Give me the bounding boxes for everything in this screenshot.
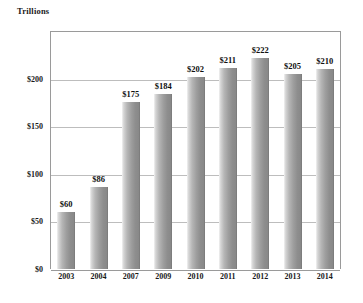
bar-value-label: $184 <box>155 81 172 91</box>
bar[interactable] <box>57 212 75 269</box>
y-axis: $0$50$100$150$200 <box>0 31 47 269</box>
chart-title: Trillions <box>17 6 49 16</box>
bar-value-label: $222 <box>252 45 269 55</box>
x-tick-label: 2013 <box>285 272 301 281</box>
x-tick-label: 2011 <box>220 272 236 281</box>
bar-group[interactable]: $205 <box>284 31 302 269</box>
bar-group[interactable]: $211 <box>219 31 237 269</box>
bar-value-label: $202 <box>187 64 204 74</box>
bar-value-label: $210 <box>316 56 333 66</box>
bar[interactable] <box>316 69 334 269</box>
bar[interactable] <box>219 68 237 269</box>
bar-value-label: $205 <box>284 61 301 71</box>
bar[interactable] <box>90 187 108 269</box>
bar[interactable] <box>187 77 205 269</box>
bar[interactable] <box>251 58 269 269</box>
bar-group[interactable]: $202 <box>187 31 205 269</box>
bar-chart: Trillions $0$50$100$150$200 $60$86$175$1… <box>0 0 363 303</box>
bar-value-label: $60 <box>60 199 73 209</box>
bar-group[interactable]: $86 <box>90 31 108 269</box>
bar-group[interactable]: $60 <box>57 31 75 269</box>
bar-group[interactable]: $175 <box>122 31 140 269</box>
x-tick-label: 2007 <box>123 272 139 281</box>
x-tick-label: 2010 <box>188 272 204 281</box>
bar[interactable] <box>284 74 302 269</box>
x-tick-label: 2012 <box>252 272 268 281</box>
bar[interactable] <box>122 102 140 269</box>
y-tick-label: $0 <box>35 265 43 274</box>
x-tick-label: 2009 <box>155 272 171 281</box>
y-tick-label: $100 <box>27 169 43 178</box>
y-tick-label: $200 <box>27 74 43 83</box>
y-tick-label: $50 <box>31 217 43 226</box>
bar-value-label: $86 <box>92 174 105 184</box>
bar[interactable] <box>154 94 172 269</box>
x-axis: 200320042007200920102011201220132014 <box>50 272 341 288</box>
x-tick-label: 2004 <box>91 272 107 281</box>
bar-group[interactable]: $222 <box>251 31 269 269</box>
x-tick-label: 2014 <box>317 272 333 281</box>
bar-group[interactable]: $184 <box>154 31 172 269</box>
x-tick-label: 2003 <box>58 272 74 281</box>
gridline <box>51 270 340 271</box>
bar-value-label: $175 <box>122 89 139 99</box>
bars-layer: $60$86$175$184$202$211$222$205$210 <box>50 31 341 269</box>
y-tick-label: $150 <box>27 122 43 131</box>
bar-value-label: $211 <box>220 55 237 65</box>
bar-group[interactable]: $210 <box>316 31 334 269</box>
